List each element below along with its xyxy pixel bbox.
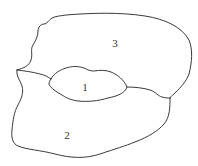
region-label-3: 3 — [112, 37, 118, 49]
region-diagram: 1 2 3 — [0, 0, 198, 166]
region-label-1: 1 — [82, 81, 88, 93]
region-3-outer-boundary — [17, 13, 192, 98]
region-1-boundary — [49, 67, 127, 102]
region-label-2: 2 — [64, 129, 70, 141]
right-divider — [127, 87, 170, 98]
left-divider — [17, 70, 51, 79]
region-2-outer-boundary — [12, 70, 170, 157]
